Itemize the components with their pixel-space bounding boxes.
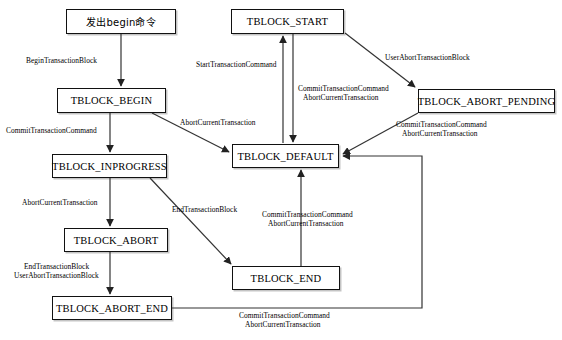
- edge-label-pending-default-commit: CommitTransactionCommand: [396, 120, 487, 129]
- edge-label-start-transaction-command: StartTransactionCommand: [196, 60, 277, 69]
- edge-label-start-default-commit: CommitTransactionCommand: [298, 84, 389, 93]
- node-tblock-begin[interactable]: TBLOCK_BEGIN: [57, 88, 166, 113]
- node-tblock-abort-pending-label: TBLOCK_ABORT_PENDING: [418, 96, 556, 107]
- edge-label-end-default-commit: CommitTransactionCommand: [262, 210, 353, 219]
- node-tblock-abort[interactable]: TBLOCK_ABORT: [64, 228, 168, 252]
- node-tblock-end[interactable]: TBLOCK_END: [232, 266, 340, 290]
- node-tblock-default[interactable]: TBLOCK_DEFAULT: [232, 144, 339, 168]
- node-tblock-begin-label: TBLOCK_BEGIN: [71, 95, 153, 106]
- edge-label-user-abort-transaction-block: UserAbortTransactionBlock: [385, 53, 470, 62]
- node-tblock-abort-end-label: TBLOCK_ABORT_END: [56, 303, 168, 314]
- node-tblock-start[interactable]: TBLOCK_START: [231, 9, 344, 34]
- node-tblock-end-label: TBLOCK_END: [251, 273, 322, 284]
- edge-label-abortend-default-commit: CommitTransactionCommand: [239, 311, 330, 320]
- node-tblock-inprogress-label: TBLOCK_INPROGRESS: [52, 161, 167, 172]
- node-issue-begin[interactable]: 发出begin命令: [66, 9, 176, 34]
- edge-label-end-default-abort: AbortCurrentTransaction: [268, 219, 344, 228]
- edge-label-abort-abortend-end: EndTransactionBlock: [24, 262, 89, 271]
- node-tblock-abort-label: TBLOCK_ABORT: [74, 235, 159, 246]
- edge-label-abortend-default-abort: AbortCurrentTransaction: [245, 320, 321, 329]
- node-tblock-abort-end[interactable]: TBLOCK_ABORT_END: [52, 296, 172, 320]
- edge-label-abort-current-transaction-begin-default: AbortCurrentTransaction: [180, 118, 256, 127]
- edge-label-begin-transaction-block: BeginTransactionBlock: [26, 56, 97, 65]
- node-tblock-start-label: TBLOCK_START: [247, 16, 328, 27]
- node-tblock-abort-pending[interactable]: TBLOCK_ABORT_PENDING: [418, 89, 555, 113]
- node-issue-begin-label: 发出begin命令: [86, 14, 156, 29]
- node-tblock-default-label: TBLOCK_DEFAULT: [237, 151, 333, 162]
- edge-label-abort-current-transaction: AbortCurrentTransaction: [22, 198, 98, 207]
- edge-label-start-default-abort: AbortCurrentTransaction: [303, 93, 379, 102]
- edge-label-pending-default-abort: AbortCurrentTransaction: [402, 129, 478, 138]
- edge-label-commit-transaction-command: CommitTransactionCommand: [6, 126, 97, 135]
- state-diagram: 发出begin命令 TBLOCK_START TBLOCK_BEGIN TBLO…: [0, 0, 562, 340]
- edge-label-end-transaction-block-diagonal: EndTransactionBlock: [172, 205, 237, 214]
- edge-label-abort-abortend-userabort: UserAbortTransactionBlock: [14, 271, 99, 280]
- node-tblock-inprogress[interactable]: TBLOCK_INPROGRESS: [52, 154, 167, 178]
